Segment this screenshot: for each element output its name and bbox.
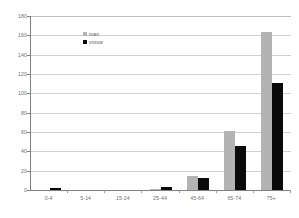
x-axis-tick-mark <box>253 190 254 193</box>
legend-item-man: man <box>83 31 103 37</box>
black-square-swatch <box>83 40 87 44</box>
bar-group <box>217 16 254 190</box>
bar-man <box>224 131 235 190</box>
legend-label-man: man <box>89 32 99 37</box>
bar-group <box>105 16 142 190</box>
legend-label-vrouw: vrouw <box>89 40 103 45</box>
x-axis-tick-mark <box>290 190 291 193</box>
x-axis-tick-label: 65-74 <box>216 196 253 201</box>
bar-group <box>254 16 291 190</box>
bar-vrouw <box>272 83 283 190</box>
bar-man <box>187 176 198 190</box>
bar-group <box>180 16 217 190</box>
bar-group <box>142 16 179 190</box>
x-axis-tick-label: 0-4 <box>30 196 67 201</box>
plot-area: man vrouw <box>30 16 291 191</box>
gray-square-swatch <box>83 32 87 36</box>
legend-item-vrouw: vrouw <box>83 39 103 45</box>
x-axis-tick-label: 15-24 <box>104 196 141 201</box>
y-axis-tick-label: 120 <box>3 72 27 77</box>
y-axis-tick-label: 180 <box>3 14 27 19</box>
y-axis-tick-label: 100 <box>3 91 27 96</box>
x-axis-tick-mark <box>67 190 68 193</box>
bar-vrouw <box>161 187 172 190</box>
x-axis-labels: 0-45-1415-2425-4445-6465-7475+ <box>30 196 290 201</box>
x-axis-tick-label: 45-64 <box>179 196 216 201</box>
bar-vrouw <box>50 188 61 190</box>
y-axis-tick-label: 140 <box>3 53 27 58</box>
y-axis-tick-label: 0 <box>3 188 27 193</box>
x-axis-tick-mark <box>104 190 105 193</box>
bar-groups <box>31 16 291 190</box>
y-axis-tick-label: 40 <box>3 149 27 154</box>
y-axis-tick-label: 160 <box>3 33 27 38</box>
chart-legend: man vrouw <box>83 31 103 45</box>
x-axis-tick-mark <box>141 190 142 193</box>
bar-chart: 180160140120100806040200 man vrouw 0-45-… <box>0 0 299 218</box>
x-axis-tick-mark <box>179 190 180 193</box>
x-axis-tick-mark <box>216 190 217 193</box>
bar-man <box>261 32 272 190</box>
x-axis-tick-label: 5-14 <box>67 196 104 201</box>
x-axis-tick-label: 25-44 <box>141 196 178 201</box>
y-axis-tick-label: 80 <box>3 111 27 116</box>
bar-vrouw <box>198 178 209 190</box>
y-axis-tick-label: 20 <box>3 169 27 174</box>
bar-vrouw <box>235 146 246 190</box>
bar-man <box>150 189 161 190</box>
x-axis-tick-label: 75+ <box>253 196 290 201</box>
y-axis-tick-label: 60 <box>3 130 27 135</box>
bar-group <box>31 16 68 190</box>
